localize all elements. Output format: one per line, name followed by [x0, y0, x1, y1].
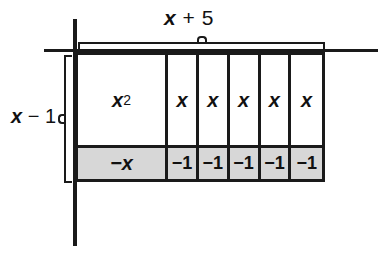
left-label-constant: 1 — [45, 105, 56, 127]
tile-column-unit-2: x −1 — [199, 55, 230, 179]
tile-x-1-label: x — [176, 89, 187, 112]
top-brace-right-tick — [323, 42, 325, 51]
tile-x-squared: x2 — [78, 55, 165, 148]
tile-negative-one-5: −1 — [291, 148, 322, 179]
tile-negative-one-5-label: −1 — [296, 153, 317, 174]
tile-column-unit-1: x −1 — [168, 55, 199, 179]
top-label-operator: + — [176, 6, 201, 29]
top-dimension-label: x + 5 — [0, 6, 378, 30]
tile-negative-one-2-label: −1 — [203, 153, 224, 174]
tile-x-squared-variable: x — [112, 89, 123, 112]
tile-column-unit-3: x −1 — [230, 55, 261, 179]
tile-x-4-label: x — [269, 89, 280, 112]
tile-x-1: x — [168, 55, 196, 148]
tile-x-2: x — [199, 55, 227, 148]
left-brace — [58, 55, 72, 183]
tile-negative-one-3-label: −1 — [233, 153, 254, 174]
tile-x-2-label: x — [207, 89, 218, 112]
tile-x-3: x — [230, 55, 258, 148]
tile-negative-one-3: −1 — [230, 148, 258, 179]
tile-x-3-label: x — [238, 89, 249, 112]
tile-column-x-squared: x2 −x — [78, 55, 168, 179]
tile-negative-x: −x — [78, 148, 165, 179]
tile-x-5: x — [291, 55, 322, 148]
top-brace-left-tick — [78, 42, 80, 51]
top-brace — [78, 36, 325, 50]
tile-negative-one-4: −1 — [261, 148, 289, 179]
left-label-operator: − — [22, 105, 45, 127]
algebra-tiles-figure: x + 5 x − 1 x2 −x x −1 x −1 x −1 x −1 — [0, 0, 378, 259]
tile-x-4: x — [261, 55, 289, 148]
tile-column-unit-5: x −1 — [291, 55, 322, 179]
left-brace-bottom-tick — [64, 181, 72, 183]
tile-negative-x-label: −x — [110, 152, 133, 175]
tile-negative-one-2: −1 — [199, 148, 227, 179]
tile-negative-one-1-label: −1 — [172, 153, 193, 174]
left-label-variable: x — [11, 105, 22, 127]
left-brace-center-notch — [58, 114, 66, 124]
left-brace-top-tick — [64, 55, 72, 57]
tile-negative-one-4-label: −1 — [264, 153, 285, 174]
top-label-constant: 5 — [202, 6, 214, 29]
top-label-variable: x — [164, 6, 176, 29]
top-brace-center-notch — [197, 36, 207, 44]
tile-column-unit-4: x −1 — [261, 55, 292, 179]
tile-grid: x2 −x x −1 x −1 x −1 x −1 x −1 — [75, 52, 325, 182]
left-dimension-label: x − 1 — [0, 105, 56, 128]
tile-x-5-label: x — [301, 89, 312, 112]
tile-negative-one-1: −1 — [168, 148, 196, 179]
